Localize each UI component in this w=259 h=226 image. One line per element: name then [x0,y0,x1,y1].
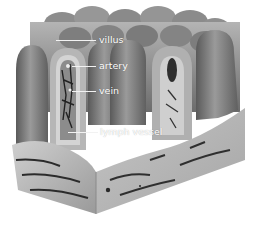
sectioned-villus-left [50,48,86,150]
villus-leader-line [56,40,96,41]
vein-leader-line [72,91,96,92]
villi-diagram: villus artery vein lymph vessel [0,0,259,226]
villus-label: villus [99,34,124,45]
lymph-vessel-label: lymph vessel [100,126,162,137]
villi-illustration [0,0,259,226]
lymph-vessel-leader-line [68,132,98,133]
artery-leader-line [72,66,96,67]
vein-label: vein [99,85,119,96]
artery-label: artery [99,60,128,71]
